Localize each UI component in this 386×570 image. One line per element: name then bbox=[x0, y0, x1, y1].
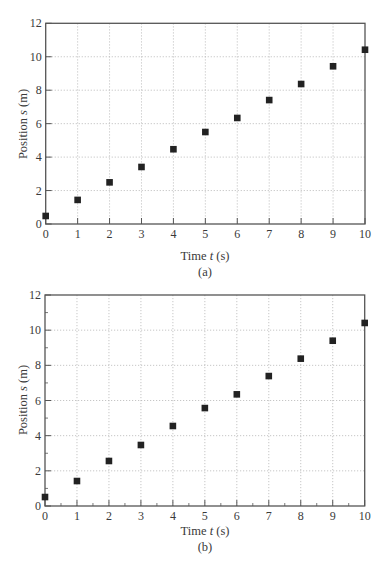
axis-ticks: 012345678910024681012 bbox=[29, 288, 371, 523]
data-point bbox=[329, 337, 336, 344]
chart-panel-a: 012345678910024681012 Time t (s) (a) Pos… bbox=[0, 0, 386, 285]
panel-caption: (a) bbox=[198, 265, 212, 279]
y-tick-label: 12 bbox=[29, 288, 41, 302]
y-tick-label: 2 bbox=[35, 464, 41, 478]
x-tick-label: 4 bbox=[170, 509, 176, 523]
y-tick-label: 0 bbox=[35, 499, 41, 513]
data-point bbox=[106, 179, 113, 186]
x-tick-label: 3 bbox=[138, 509, 144, 523]
y-tick-label: 0 bbox=[36, 217, 42, 231]
x-tick-label: 8 bbox=[298, 509, 304, 523]
x-tick-label: 2 bbox=[106, 509, 112, 523]
data-point bbox=[265, 373, 272, 380]
x-axis-label: Time t (s) bbox=[181, 524, 230, 538]
y-tick-label: 8 bbox=[35, 358, 41, 372]
y-tick-label: 12 bbox=[30, 16, 42, 30]
x-tick-label: 10 bbox=[359, 509, 371, 523]
y-tick-label: 2 bbox=[36, 184, 42, 198]
data-point bbox=[138, 442, 145, 449]
scatter-plot-a: 012345678910024681012 Time t (s) (a) Pos… bbox=[0, 0, 386, 285]
scatter-plot-b: 012345678910024681012 Time t (s) (b) Pos… bbox=[0, 280, 386, 570]
x-tick-label: 4 bbox=[170, 227, 176, 241]
data-point bbox=[42, 213, 49, 220]
x-tick-label: 7 bbox=[266, 227, 272, 241]
axis-ticks: 012345678910024681012 bbox=[30, 16, 371, 241]
y-tick-label: 6 bbox=[35, 394, 41, 408]
data-point bbox=[297, 355, 304, 362]
data-point bbox=[361, 320, 368, 327]
x-tick-label: 0 bbox=[42, 509, 48, 523]
y-tick-label: 10 bbox=[29, 323, 41, 337]
data-point bbox=[42, 494, 49, 501]
data-point bbox=[266, 97, 273, 104]
data-point bbox=[170, 146, 177, 153]
data-point bbox=[74, 478, 81, 485]
x-tick-label: 2 bbox=[107, 227, 113, 241]
panel-caption: (b) bbox=[198, 540, 213, 554]
x-tick-label: 0 bbox=[43, 227, 49, 241]
data-point bbox=[74, 197, 81, 204]
data-point bbox=[138, 164, 145, 171]
y-tick-label: 4 bbox=[36, 150, 42, 164]
x-tick-label: 1 bbox=[74, 509, 80, 523]
x-tick-label: 8 bbox=[298, 227, 304, 241]
data-point bbox=[202, 129, 209, 136]
y-axis-label: Position s (m) bbox=[16, 365, 30, 435]
y-tick-label: 6 bbox=[36, 117, 42, 131]
x-tick-label: 9 bbox=[330, 227, 336, 241]
data-point bbox=[202, 405, 209, 412]
y-tick-label: 10 bbox=[30, 50, 42, 64]
x-tick-label: 5 bbox=[202, 227, 208, 241]
x-tick-label: 6 bbox=[234, 509, 240, 523]
y-tick-label: 4 bbox=[35, 429, 41, 443]
grid-lines bbox=[46, 23, 365, 224]
x-tick-label: 1 bbox=[75, 227, 81, 241]
data-point bbox=[170, 423, 177, 430]
data-point bbox=[330, 63, 337, 70]
chart-panel-b: 012345678910024681012 Time t (s) (b) Pos… bbox=[0, 280, 386, 570]
grid-lines bbox=[45, 295, 365, 506]
data-point bbox=[106, 458, 113, 465]
x-tick-label: 3 bbox=[138, 227, 144, 241]
x-tick-label: 10 bbox=[359, 227, 371, 241]
x-tick-label: 9 bbox=[330, 509, 336, 523]
x-axis-label: Time t (s) bbox=[181, 249, 230, 263]
x-tick-label: 6 bbox=[234, 227, 240, 241]
data-point bbox=[298, 81, 305, 88]
y-tick-label: 8 bbox=[36, 83, 42, 97]
data-point bbox=[234, 391, 241, 398]
x-tick-label: 7 bbox=[266, 509, 272, 523]
data-point bbox=[362, 46, 369, 53]
x-tick-label: 5 bbox=[202, 509, 208, 523]
y-axis-label: Position s (m) bbox=[16, 89, 30, 159]
data-point bbox=[234, 115, 241, 122]
